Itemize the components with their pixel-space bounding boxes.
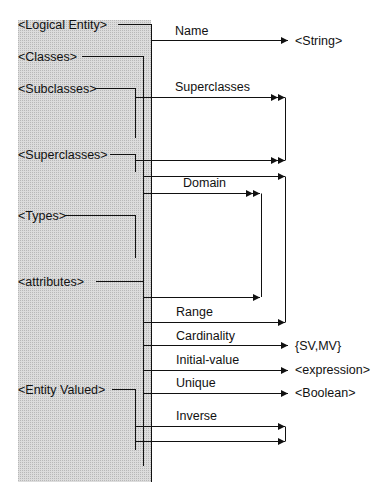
relation-label-initial-value: Initial-value [176,353,239,367]
target-label-expression: <expression> [295,363,370,377]
entity-relationship-diagram: <Logical Entity> <Classes> <Subclasses> … [0,0,378,501]
entity-label-subclasses: <Subclasses> [18,82,97,96]
entity-label-superclasses: <Superclasses> [18,148,108,162]
target-label-boolean: <Boolean> [295,386,355,400]
relation-label-inverse: Inverse [176,409,217,423]
entity-label-types: <Types> [18,209,66,223]
entity-label-logical-entity: <Logical Entity> [18,18,107,32]
relation-label-domain: Domain [183,176,226,190]
target-label-string: <String> [295,34,342,48]
entity-label-entity-valued: <Entity Valued> [18,383,105,397]
relation-label-superclasses: Superclasses [175,80,250,94]
target-label-sv-mv: {SV,MV} [295,339,341,353]
relation-label-range: Range [176,305,213,319]
entity-label-attributes: <attributes> [18,275,84,289]
entity-label-classes: <Classes> [18,50,77,64]
relation-label-name: Name [175,24,208,38]
relation-label-unique: Unique [176,376,216,390]
relation-label-cardinality: Cardinality [176,329,236,343]
